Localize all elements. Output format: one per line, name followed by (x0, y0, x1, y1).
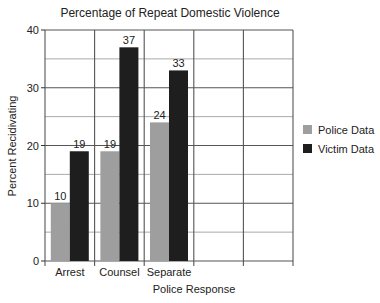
police-swatch-icon (303, 125, 312, 134)
bar-value-label: 33 (172, 57, 184, 69)
legend-item-police: Police Data (303, 120, 374, 139)
x-tick-label: Arrest (55, 266, 84, 278)
bar-value-label: 37 (123, 34, 135, 46)
bar-value-label: 10 (54, 190, 66, 202)
bar-value-label: 24 (153, 109, 165, 121)
y-tick-label: 10 (27, 197, 39, 209)
bar-value-label: 19 (73, 138, 85, 150)
bar-separate-victim (169, 70, 188, 261)
legend-label-victim: Victim Data (318, 143, 374, 155)
y-tick-label: 20 (27, 140, 39, 152)
bar-counsel-police (100, 151, 119, 261)
bar-arrest-victim (70, 151, 89, 261)
bar-separate-police (150, 122, 169, 261)
y-tick-label: 0 (33, 255, 39, 267)
legend: Police Data Victim Data (303, 120, 374, 158)
victim-swatch-icon (303, 144, 312, 153)
legend-item-victim: Victim Data (303, 139, 374, 158)
legend-label-police: Police Data (318, 124, 374, 136)
x-tick-label: Counsel (99, 266, 139, 278)
y-tick-label: 40 (27, 24, 39, 36)
bar-arrest-police (51, 203, 70, 261)
y-tick-label: 30 (27, 82, 39, 94)
bar-value-label: 19 (104, 138, 116, 150)
bar-counsel-victim (119, 47, 138, 261)
x-tick-label: Separate (147, 266, 192, 278)
